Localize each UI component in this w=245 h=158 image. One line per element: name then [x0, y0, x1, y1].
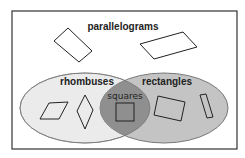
rectangles-label: rectangles [142, 76, 192, 87]
parallelograms-label: parallelograms [87, 21, 159, 32]
square-shape [116, 103, 134, 121]
venn-diagram: parallelograms rhombuses rectangles squa… [0, 0, 245, 158]
rhombuses-label: rhombuses [60, 76, 114, 87]
squares-label: squares [107, 91, 143, 101]
